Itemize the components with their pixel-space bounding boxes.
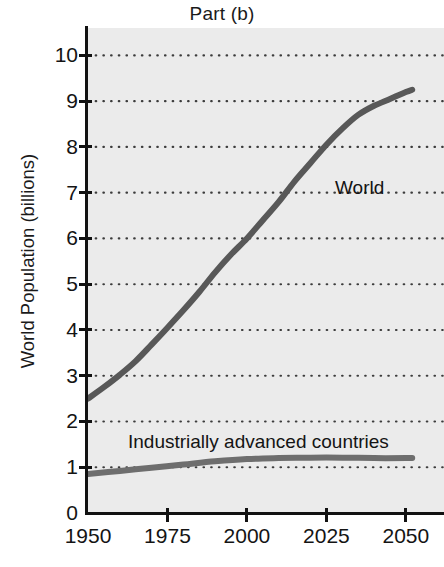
y-axis-ticks: 109876543210 [0,0,78,567]
y-tick-label: 0 [32,502,78,523]
x-tick-mark [325,508,328,522]
y-tick-mark [79,145,92,148]
y-tick-label: 9 [32,90,78,111]
x-tick-label: 2050 [361,525,444,546]
y-tick-mark [79,466,92,469]
y-tick-mark [79,237,92,240]
y-tick-mark [79,54,92,57]
y-tick-mark [79,328,92,331]
series-line [88,458,412,475]
y-tick-label: 8 [32,136,78,157]
y-tick-label: 5 [32,273,78,294]
x-tick-label: 1950 [43,525,133,546]
x-tick-label: 2025 [281,525,371,546]
chart-figure: Part (b) World Population (billions) 109… [0,0,444,567]
y-tick-label: 2 [32,410,78,431]
y-tick-label: 4 [32,319,78,340]
gridlines [88,55,444,467]
y-tick-label: 1 [32,456,78,477]
x-axis-line [85,512,444,515]
x-tick-label: 2000 [202,525,292,546]
y-tick-mark [79,100,92,103]
y-tick-label: 10 [32,44,78,65]
y-tick-label: 7 [32,182,78,203]
x-tick-label: 1975 [122,525,212,546]
y-tick-label: 3 [32,365,78,386]
series-line [88,90,412,399]
series-label-world: World [335,177,384,199]
y-tick-mark [79,283,92,286]
x-tick-mark [245,508,248,522]
x-tick-mark [404,508,407,522]
x-tick-mark [166,508,169,522]
series-label-industrially-advanced-countries: Industrially advanced countries [128,431,389,453]
y-tick-label: 6 [32,227,78,248]
y-tick-mark [79,420,92,423]
y-tick-mark [79,191,92,194]
y-tick-mark [79,374,92,377]
